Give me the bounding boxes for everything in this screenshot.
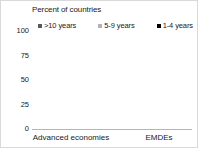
y-axis-tick-25: 25 [21,101,29,109]
legend-swatch-icon-more-than-10-years [38,24,42,28]
chart-title: Percent of countries [32,5,101,14]
y-axis-tick-labels: 100 75 50 25 0 [4,31,29,129]
chart-figure: Percent of countries >10 years 5-9 years… [0,0,198,148]
y-axis-tick-100: 100 [16,27,29,35]
y-axis-tick-75: 75 [21,52,29,60]
legend-swatch-icon-5-9-years [98,24,102,28]
x-axis-label-advanced-economies: Advanced economies [21,133,121,143]
y-axis-tick-50: 50 [21,76,29,84]
legend-label-more-than-10-years: >10 years [44,22,76,30]
legend-label-1-4-years: 1-4 years [163,22,193,30]
legend-item-5-9-years[interactable]: 5-9 years [98,22,134,30]
legend-item-more-than-10-years[interactable]: >10 years [38,22,76,30]
legend-label-5-9-years: 5-9 years [104,22,134,30]
legend-item-1-4-years[interactable]: 1-4 years [157,22,193,30]
y-axis-tick-0: 0 [25,125,29,133]
plot-area [32,31,192,129]
chart-legend: >10 years 5-9 years 1-4 years [38,20,193,31]
legend-swatch-icon-1-4-years [157,24,161,28]
x-axis-line [32,129,192,130]
x-axis-label-emdes: EMDEs [119,133,198,143]
